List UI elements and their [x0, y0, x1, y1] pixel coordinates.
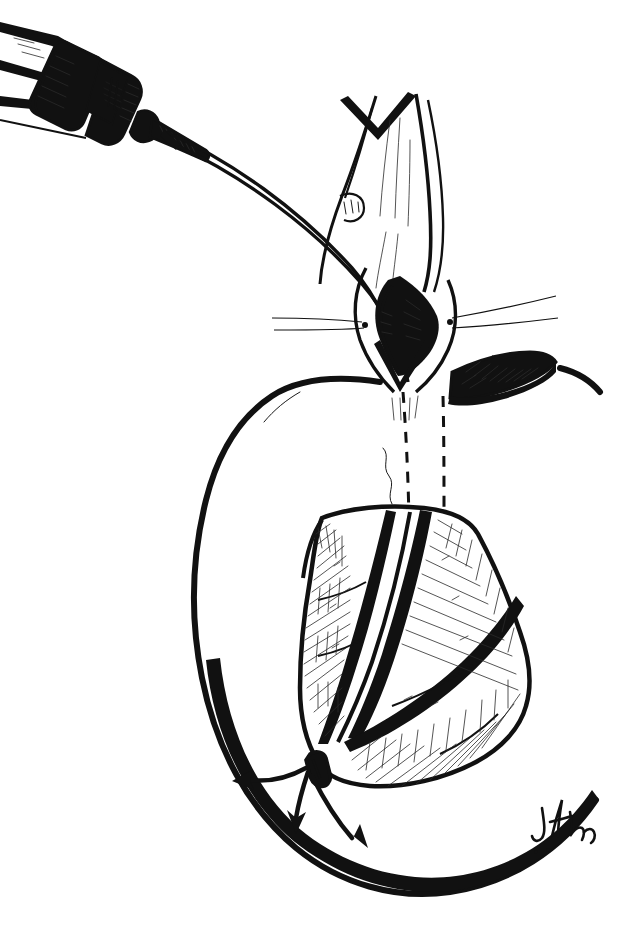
suture-knot-right	[447, 319, 453, 325]
surgical-illustration: J. Hh	[0, 0, 629, 927]
illustration-canvas: Surgical line illustration: transduodena…	[0, 0, 629, 927]
suture-knot-left	[362, 322, 368, 328]
